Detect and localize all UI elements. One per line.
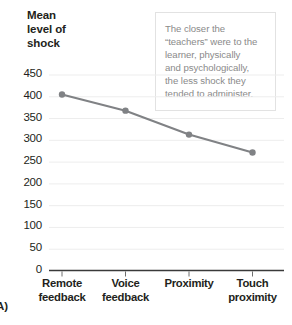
- data-point-marker: [186, 131, 192, 137]
- y-tick-label: 0: [8, 263, 42, 275]
- y-tick-label: 350: [8, 111, 42, 123]
- x-tick-label-line-1: Touch: [210, 277, 292, 291]
- panel-label: A): [0, 300, 8, 312]
- x-axis-ticks: [62, 272, 253, 277]
- y-tick-label: 450: [8, 67, 42, 79]
- y-tick-label: 250: [8, 154, 42, 166]
- y-tick-label: 200: [8, 176, 42, 188]
- data-point-marker: [249, 149, 255, 155]
- x-tick-label-line-2: proximity: [210, 291, 292, 305]
- y-tick-label: 50: [8, 241, 42, 253]
- y-tick-label: 150: [8, 198, 42, 210]
- x-tick-label: Touchproximity: [210, 277, 292, 304]
- y-tick-label: 300: [8, 132, 42, 144]
- y-tick-label: 400: [8, 89, 42, 101]
- data-point-marker: [122, 107, 128, 113]
- data-point-marker: [59, 91, 65, 97]
- x-tick-label-line-2: feedback: [83, 291, 169, 305]
- y-tick-label: 100: [8, 219, 42, 231]
- data-series-line: [62, 95, 253, 153]
